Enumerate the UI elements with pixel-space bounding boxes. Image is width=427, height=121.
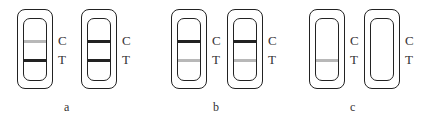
panel-label-c: c — [350, 101, 355, 113]
control-line-label: C — [268, 34, 277, 47]
test-strip-window — [177, 18, 201, 81]
panel-label-b: b — [213, 101, 219, 113]
test-line-label: T — [122, 53, 130, 66]
test-line-label: T — [212, 53, 220, 66]
panel-label-a: a — [64, 101, 69, 113]
test-line-label: T — [350, 53, 358, 66]
control-line-label: C — [405, 34, 414, 47]
control-line-label: C — [58, 34, 67, 47]
test-strip-window — [87, 18, 111, 81]
test-line-label: T — [268, 53, 276, 66]
control-line-label: C — [212, 34, 221, 47]
test-line — [24, 59, 46, 62]
test-line — [234, 59, 256, 62]
control-line — [24, 40, 46, 43]
test-line — [316, 59, 338, 62]
test-strip-window — [23, 18, 47, 81]
control-line — [178, 40, 200, 43]
control-line — [234, 40, 256, 43]
test-line — [88, 59, 110, 62]
test-strip-window — [370, 18, 394, 81]
test-line-label: T — [405, 53, 413, 66]
control-line — [88, 40, 110, 43]
test-strip-window — [233, 18, 257, 81]
test-line-label: T — [58, 53, 66, 66]
control-line-label: C — [350, 34, 359, 47]
test-line — [178, 59, 200, 62]
control-line-label: C — [122, 34, 131, 47]
test-strip-window — [315, 18, 339, 81]
